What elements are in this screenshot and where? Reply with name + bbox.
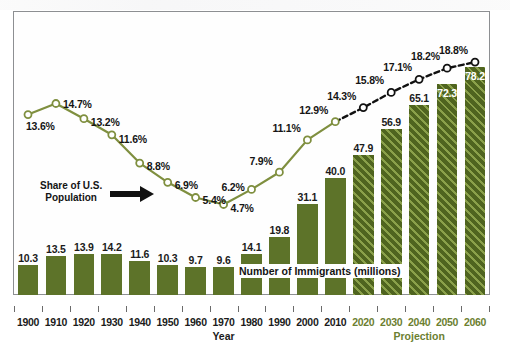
x-axis-tick bbox=[14, 306, 15, 312]
x-axis-tick bbox=[489, 306, 490, 312]
axis-title-year: Year bbox=[194, 330, 254, 342]
share-percent-label-2040: 17.1% bbox=[383, 61, 412, 73]
bar-1970 bbox=[213, 267, 234, 295]
share-marker-2000 bbox=[304, 136, 311, 143]
share-marker-1980 bbox=[248, 186, 255, 193]
x-axis-tick bbox=[321, 306, 322, 312]
x-axis-tick bbox=[349, 306, 350, 312]
x-axis-tick bbox=[182, 306, 183, 312]
bar-2050 bbox=[437, 84, 458, 295]
x-axis-tick bbox=[461, 306, 462, 312]
bar-1900 bbox=[18, 265, 39, 295]
bar-1920 bbox=[74, 254, 95, 295]
x-axis-tick bbox=[293, 306, 294, 312]
share-marker-2010 bbox=[332, 118, 339, 125]
share-marker-2040 bbox=[416, 76, 423, 83]
share-percent-label-2060: 18.8% bbox=[439, 44, 468, 56]
share-percent-label-1920: 13.2% bbox=[91, 116, 120, 128]
share-percent-label-1900: 13.6% bbox=[26, 120, 55, 132]
share-marker-2050 bbox=[444, 65, 451, 72]
x-axis-tick bbox=[238, 306, 239, 312]
bar-1950 bbox=[157, 265, 178, 295]
share-percent-label-1940: 8.8% bbox=[147, 160, 170, 172]
share-marker-1920 bbox=[80, 115, 87, 122]
bar-value-label-2050: 72.3 bbox=[429, 87, 465, 99]
bar-2060 bbox=[465, 67, 486, 295]
share-percent-label-1960: 5.4% bbox=[203, 194, 226, 206]
x-axis-tick bbox=[98, 306, 99, 312]
share-percent-label-1980: 6.2% bbox=[222, 181, 245, 193]
x-axis-tick bbox=[154, 306, 155, 312]
x-axis-label-2060: 2060 bbox=[456, 316, 494, 328]
plot-area: 10.313.513.914.211.610.39.79.614.119.831… bbox=[14, 12, 489, 294]
arrow-right-icon bbox=[110, 186, 154, 206]
bar-1960 bbox=[185, 267, 206, 295]
share-marker-2060 bbox=[472, 59, 479, 66]
share-percent-label-1930: 11.6% bbox=[119, 133, 147, 145]
x-axis-tick bbox=[126, 306, 127, 312]
bar-value-label-1990: 19.8 bbox=[261, 224, 297, 236]
bar-1940 bbox=[129, 261, 150, 295]
share-percent-label-2050: 18.2% bbox=[411, 50, 440, 62]
x-axis-tick bbox=[405, 306, 406, 312]
x-axis-tick bbox=[265, 306, 266, 312]
share-marker-1960 bbox=[192, 194, 199, 201]
bar-2040 bbox=[409, 105, 430, 295]
x-axis-tick bbox=[377, 306, 378, 312]
scan-bleed-band bbox=[0, 0, 510, 10]
bar-value-label-1980: 14.1 bbox=[234, 241, 270, 253]
share-marker-1950 bbox=[164, 179, 171, 186]
share-marker-1990 bbox=[276, 169, 283, 176]
x-axis-tick bbox=[433, 306, 434, 312]
share-percent-label-2030: 15.8% bbox=[355, 74, 384, 86]
number-of-immigrants-annotation: Number of Immigrants (millions) bbox=[236, 264, 404, 278]
bar-value-label-2030: 56.9 bbox=[373, 116, 409, 128]
share-marker-2030 bbox=[388, 89, 395, 96]
share-percent-label-1910: 14.7% bbox=[63, 98, 92, 110]
share-percent-label-2000: 11.1% bbox=[272, 122, 300, 134]
share-marker-1900 bbox=[25, 111, 32, 118]
bar-value-label-2000: 31.1 bbox=[289, 191, 325, 203]
bar-1930 bbox=[101, 254, 122, 295]
share-marker-2020 bbox=[360, 104, 367, 111]
share-of-population-annotation: Share of U.S. Population bbox=[40, 180, 102, 204]
share-marker-1940 bbox=[136, 160, 143, 167]
axis-title-projection: Projection bbox=[379, 330, 459, 342]
x-axis-tick bbox=[210, 306, 211, 312]
bar-value-label-2060: 78.2 bbox=[457, 70, 493, 82]
share-annotation-line1: Share of U.S. bbox=[40, 180, 102, 192]
bar-value-label-2010: 40.0 bbox=[317, 165, 353, 177]
share-marker-1930 bbox=[108, 131, 115, 138]
bar-value-label-2020: 47.9 bbox=[345, 142, 381, 154]
x-axis-tick bbox=[70, 306, 71, 312]
share-marker-1910 bbox=[52, 100, 59, 107]
share-percent-label-1990: 7.9% bbox=[249, 155, 272, 167]
share-percent-label-1970: 4.7% bbox=[231, 202, 254, 214]
share-percent-label-1950: 6.9% bbox=[175, 179, 198, 191]
share-percent-label-2020: 14.3% bbox=[327, 90, 356, 102]
bar-2000 bbox=[297, 204, 318, 295]
share-annotation-line2: Population bbox=[40, 192, 102, 204]
x-axis-tick bbox=[42, 306, 43, 312]
chart-page: 10.313.513.914.211.610.39.79.614.119.831… bbox=[0, 0, 510, 343]
share-percent-label-2010: 12.9% bbox=[299, 104, 328, 116]
bar-1910 bbox=[46, 256, 67, 295]
